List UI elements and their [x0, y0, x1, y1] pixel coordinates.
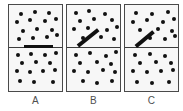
- dot-top-c: [163, 37, 168, 42]
- panel-divider-c: [125, 47, 178, 48]
- dot-top-b: [112, 37, 117, 42]
- dot-top-b: [103, 12, 108, 17]
- dot-bottom-a: [29, 52, 34, 57]
- dot-panels-figure: ABC: [0, 0, 183, 111]
- dot-bottom-c: [133, 53, 138, 58]
- dot-top-b: [72, 27, 77, 32]
- dot-top-a: [35, 27, 40, 32]
- dot-bottom-c: [131, 69, 136, 74]
- dot-top-a: [50, 28, 55, 33]
- dot-bottom-b: [72, 69, 77, 74]
- dot-top-b: [92, 17, 97, 22]
- dot-bottom-b: [104, 54, 109, 59]
- dot-bottom-c: [150, 81, 155, 86]
- dot-top-b: [87, 9, 92, 14]
- dot-top-b: [78, 19, 83, 24]
- dot-top-a: [55, 33, 60, 38]
- dot-bottom-c: [159, 69, 164, 74]
- panel-label-b: B: [66, 95, 121, 107]
- dot-bottom-a: [20, 61, 25, 66]
- dot-bottom-b: [81, 79, 86, 84]
- dot-bottom-b: [86, 70, 91, 75]
- dot-bottom-c: [138, 61, 143, 66]
- dot-top-c: [170, 29, 175, 34]
- panel-inner-c: [125, 5, 178, 91]
- dot-top-c: [156, 27, 161, 32]
- dot-bottom-b: [95, 60, 100, 65]
- dot-bottom-a: [51, 80, 56, 85]
- dot-top-a: [28, 18, 33, 23]
- dot-top-b: [105, 28, 110, 33]
- dot-top-a: [15, 20, 20, 25]
- dot-bottom-b: [114, 50, 119, 55]
- panel-c: [124, 4, 179, 92]
- dot-top-a: [47, 11, 52, 16]
- dot-top-c: [172, 17, 177, 22]
- dot-bottom-c: [163, 54, 168, 59]
- dot-top-a: [45, 35, 50, 40]
- dot-bottom-c: [145, 70, 150, 75]
- dot-top-a: [54, 17, 59, 22]
- dot-bottom-b: [74, 53, 79, 58]
- dot-bottom-a: [53, 68, 58, 73]
- bar-horizontal-a: [24, 45, 53, 49]
- panel-label-a: A: [8, 95, 63, 107]
- dot-top-b: [74, 11, 79, 16]
- panel-label-c: C: [124, 95, 179, 107]
- dot-top-a: [31, 36, 36, 41]
- panel-divider-b: [67, 47, 120, 48]
- dot-bottom-a: [15, 69, 20, 74]
- dot-bottom-a: [54, 51, 59, 56]
- dot-bottom-a: [28, 70, 33, 75]
- dot-bottom-c: [154, 60, 159, 65]
- dot-top-b: [110, 18, 115, 23]
- bar-diagonal-c: [135, 30, 155, 48]
- panel-inner-a: [9, 5, 62, 91]
- dot-top-a: [19, 12, 24, 17]
- panel-b: [66, 4, 121, 92]
- dot-bottom-a: [32, 80, 37, 85]
- dot-top-b: [99, 35, 104, 40]
- dot-bottom-b: [88, 51, 93, 56]
- dot-bottom-b: [109, 62, 114, 67]
- dot-bottom-b: [110, 79, 115, 84]
- panel-a: [8, 4, 63, 92]
- dot-top-a: [17, 37, 22, 42]
- dot-bottom-a: [41, 69, 46, 74]
- dot-bottom-b: [95, 81, 100, 86]
- panel-inner-b: [67, 5, 120, 91]
- dot-top-c: [134, 11, 139, 16]
- dot-bottom-b: [101, 68, 106, 73]
- dot-bottom-a: [48, 61, 53, 66]
- dot-bottom-a: [18, 79, 23, 84]
- dot-top-a: [43, 19, 48, 24]
- dot-bottom-b: [113, 70, 118, 75]
- dot-bottom-c: [171, 68, 176, 73]
- dot-top-c: [131, 20, 136, 25]
- dot-top-c: [145, 18, 150, 23]
- dot-bottom-c: [148, 52, 153, 57]
- dot-top-b: [115, 25, 120, 30]
- dot-bottom-c: [167, 80, 172, 85]
- dot-bottom-b: [78, 61, 83, 66]
- dot-top-c: [161, 20, 166, 25]
- dot-top-c: [138, 28, 143, 33]
- dot-top-a: [33, 10, 38, 15]
- dot-bottom-c: [169, 61, 174, 66]
- dot-top-c: [166, 10, 171, 15]
- dot-bottom-a: [43, 53, 48, 58]
- dot-top-c: [150, 12, 155, 17]
- dot-top-b: [86, 26, 91, 31]
- dot-top-c: [173, 34, 178, 39]
- dot-bottom-a: [16, 53, 21, 58]
- dot-top-a: [21, 29, 26, 34]
- dot-bottom-a: [34, 60, 39, 65]
- dot-bottom-c: [135, 80, 140, 85]
